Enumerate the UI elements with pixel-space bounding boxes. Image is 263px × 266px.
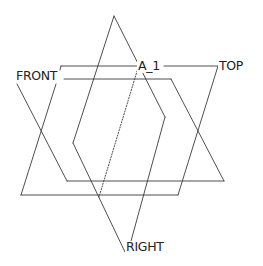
front-datum-plane[interactable]: [17, 79, 224, 181]
top-plane-label[interactable]: TOP: [218, 60, 244, 73]
front-plane-label[interactable]: FRONT: [15, 70, 58, 83]
right-datum-plane[interactable]: [73, 16, 165, 252]
axis-a1[interactable]: [99, 68, 138, 197]
right-plane-label[interactable]: RIGHT: [125, 241, 165, 254]
axis-a1-label[interactable]: A_1: [137, 60, 161, 73]
datum-planes-diagram: FRONT TOP RIGHT A_1: [0, 0, 263, 266]
